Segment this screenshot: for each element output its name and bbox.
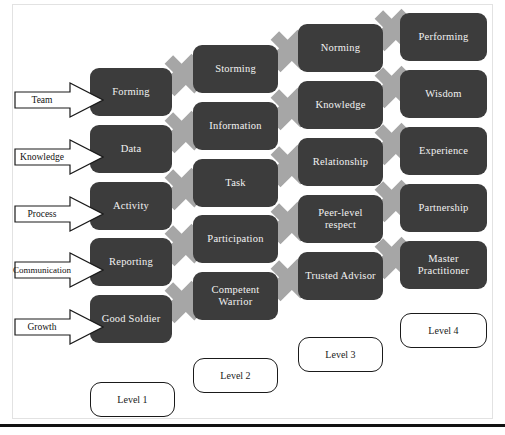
bottom-divider-rule [0, 424, 505, 427]
stage-box-growth-4[interactable]: Master Practitioner [400, 241, 487, 289]
stage-box-growth-2[interactable]: Competent Warrior [193, 272, 278, 320]
level-box-1[interactable]: Level 1 [90, 382, 175, 417]
stage-box-knowledge-2[interactable]: Information [193, 102, 278, 150]
stage-box-team-4[interactable]: Performing [400, 13, 487, 61]
stage-box-knowledge-3[interactable]: Knowledge [298, 81, 383, 129]
stage-box-process-4[interactable]: Experience [400, 127, 487, 175]
callout-arrow-growth: Growth [14, 309, 104, 345]
stage-box-team-3[interactable]: Norming [298, 24, 383, 72]
stage-box-knowledge-4[interactable]: Wisdom [400, 70, 487, 118]
callout-arrow-communication: Communication [14, 252, 104, 288]
stage-box-growth-3[interactable]: Trusted Advisor [298, 252, 383, 300]
level-box-3[interactable]: Level 3 [298, 337, 383, 372]
stage-box-team-2[interactable]: Storming [193, 45, 278, 93]
stage-box-process-2[interactable]: Task [193, 159, 278, 207]
stage-box-communication-4[interactable]: Partnership [400, 184, 487, 232]
level-box-2[interactable]: Level 2 [193, 358, 278, 393]
stage-box-communication-2[interactable]: Participation [193, 215, 278, 263]
level-box-4[interactable]: Level 4 [400, 313, 487, 348]
stage-box-process-3[interactable]: Relationship [298, 138, 383, 186]
callout-arrow-knowledge: Knowledge [14, 139, 104, 175]
stage-box-communication-3[interactable]: Peer-level respect [298, 195, 383, 243]
diagram-canvas: Team Knowledge Process Communication Gro… [0, 0, 505, 435]
callout-arrow-team: Team [14, 82, 104, 118]
callout-arrow-process: Process [14, 196, 104, 232]
